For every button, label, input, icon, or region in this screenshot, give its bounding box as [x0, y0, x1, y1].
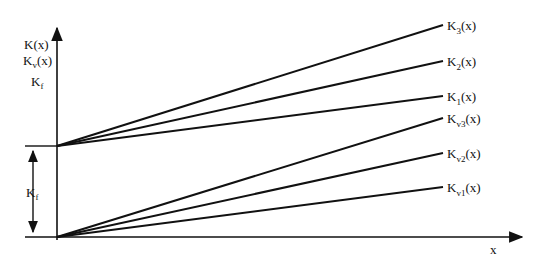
kf-gap-label: Kf [26, 185, 38, 202]
x-axis-label: x [490, 242, 497, 257]
y-axis-label-kv: Kv(x) [23, 53, 52, 70]
line-k3 [57, 25, 443, 146]
diagram-canvas: K(x) Kv(x) Kf Kf K3(x) K2(x) K1(x) Kv3(x… [0, 0, 541, 267]
label-kv1: Kv1(x) [447, 180, 481, 198]
line-kv3 [57, 118, 443, 237]
y-axis-label-k: K(x) [24, 37, 49, 52]
label-kv3: Kv3(x) [447, 111, 481, 129]
y-axis-label-kf: Kf [31, 74, 43, 91]
label-k2: K2(x) [447, 54, 476, 72]
label-k1: K1(x) [447, 89, 476, 107]
label-kv2: Kv2(x) [447, 146, 481, 164]
label-k3: K3(x) [447, 18, 476, 36]
